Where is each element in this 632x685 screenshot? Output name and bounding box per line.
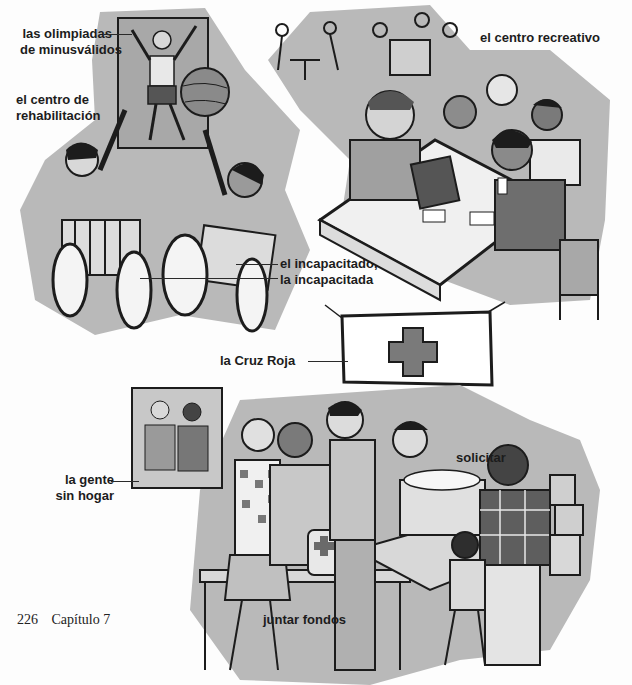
recreation-center-illustration [260, 0, 632, 330]
leader-line-olympics [104, 34, 132, 35]
label-olympics: las olimpiadas de minusválidos [20, 26, 112, 58]
red-cross-banner [320, 300, 510, 390]
label-recreation-center: el centro recreativo [480, 30, 600, 46]
fundraising-illustration [130, 380, 632, 685]
leader-line-red-cross [308, 361, 348, 362]
label-solicit: solicitar [456, 450, 506, 466]
recreation-background-shape [260, 0, 632, 330]
label-red-cross: la Cruz Roja [220, 353, 295, 369]
page-number: 226 [17, 612, 38, 627]
textbook-page: · · · · · · · · · · · · [0, 0, 632, 685]
red-cross-icon [320, 300, 510, 390]
fundraising-background-shape [130, 380, 632, 685]
leader-line-homeless [111, 481, 139, 482]
label-homeless: la gente sin hogar [30, 472, 114, 504]
chapter-label: Capítulo 7 [52, 612, 111, 627]
label-rehab-center: el centro de rehabilitación [16, 92, 101, 124]
leader-line-disabled-female [140, 278, 278, 279]
label-fundraise: juntar fondos [263, 612, 346, 628]
page-footer: 226 Capítulo 7 [17, 612, 110, 628]
